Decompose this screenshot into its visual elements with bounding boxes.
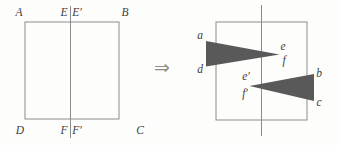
label-corner-B: B (121, 6, 128, 18)
label-e-prime: e′ (242, 70, 250, 82)
label-a: a (197, 29, 203, 41)
upper-flap-triangle (206, 41, 280, 67)
right-square-group: a d e f e′ f′ b c (197, 5, 322, 136)
label-c: c (316, 96, 321, 108)
label-d: d (197, 63, 203, 75)
label-e: e (280, 40, 285, 52)
label-fold-E-prime: E′ (71, 6, 82, 18)
label-b: b (316, 67, 322, 79)
label-corner-C: C (136, 124, 144, 136)
left-square-group: A E E′ B D F F′ C (14, 6, 144, 138)
label-fold-F-prime: F′ (71, 124, 82, 136)
label-fold-F: F (59, 124, 68, 136)
label-fold-E: E (59, 6, 67, 18)
fold-diagram: A E E′ B D F F′ C ⇒ a d e f e′ f′ b c (0, 0, 340, 145)
implies-arrow-icon: ⇒ (154, 56, 170, 78)
label-corner-D: D (15, 124, 25, 136)
left-square-outline (25, 22, 119, 119)
label-f-prime: f′ (242, 87, 248, 100)
label-f: f (282, 54, 287, 67)
label-corner-A: A (14, 6, 23, 18)
lower-flap-triangle (250, 74, 315, 101)
diagram-svg: A E E′ B D F F′ C ⇒ a d e f e′ f′ b c (0, 0, 340, 145)
